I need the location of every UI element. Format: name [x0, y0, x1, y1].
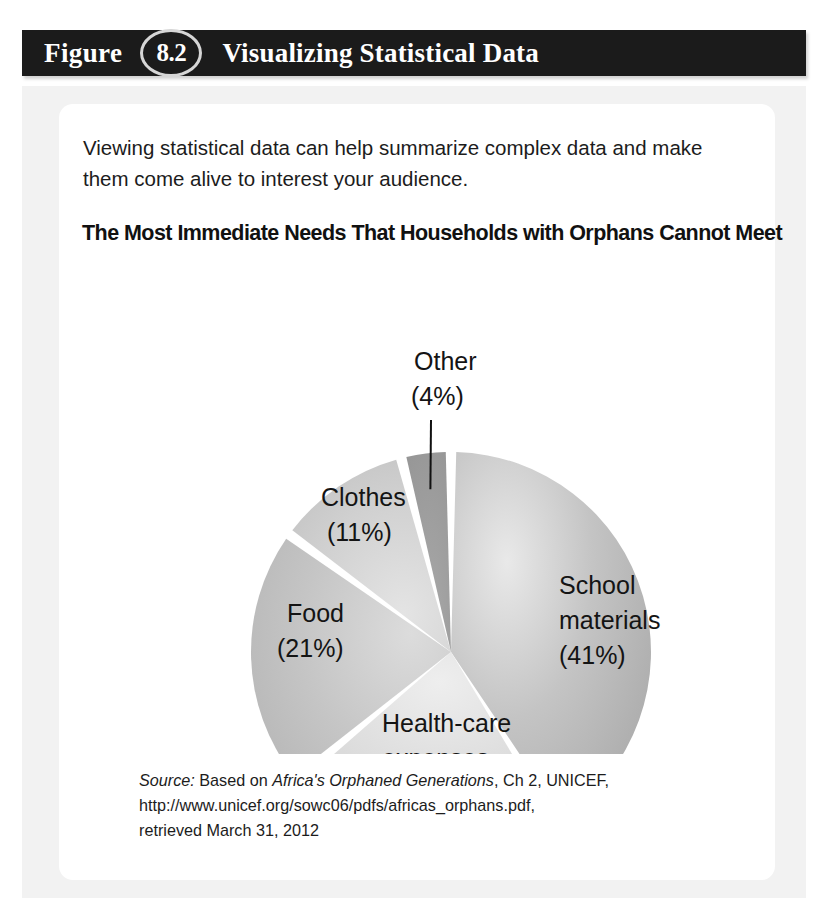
- pie-label-school-materials-line2: materials: [559, 606, 660, 634]
- source-work-title: Africa's Orphaned Generations: [272, 771, 494, 789]
- pie-label-food-line1: Food: [287, 599, 344, 627]
- source-note: Source: Based on Africa's Orphaned Gener…: [139, 768, 739, 843]
- figure-number-badge: 8.2: [140, 29, 202, 77]
- pie-chart-svg: School materials (41%) Health-care expen…: [59, 254, 775, 754]
- figure-header-bar: Figure 8.2 Visualizing Statistical Data: [22, 30, 806, 76]
- source-based-on-text: Based on: [199, 771, 267, 789]
- figure-title: Visualizing Statistical Data: [222, 38, 539, 69]
- figure-panel: Viewing statistical data can help summar…: [22, 86, 806, 898]
- figure-label: Figure: [44, 38, 122, 69]
- pie-chart: School materials (41%) Health-care expen…: [59, 254, 775, 754]
- pie-label-health-care-line2: expenses: [382, 744, 489, 754]
- pie-label-clothes-value: (11%): [327, 518, 392, 546]
- figure-card: Viewing statistical data can help summar…: [59, 104, 775, 880]
- source-label: Source:: [139, 771, 195, 789]
- chart-title: The Most Immediate Needs That Households…: [82, 221, 782, 246]
- pie-label-other-line1: Other: [414, 347, 477, 375]
- pie-label-school-materials-value: (41%): [559, 641, 626, 669]
- pie-label-clothes-line1: Clothes: [321, 483, 406, 511]
- source-retrieved: retrieved March 31, 2012: [139, 821, 319, 839]
- pie-label-health-care-line1: Health-care: [382, 709, 511, 737]
- figure-number: 8.2: [157, 39, 187, 67]
- pie-label-school-materials-line1: School: [559, 571, 635, 599]
- pie-label-other: Other (4%): [411, 347, 477, 410]
- pie-leader-line-other: [430, 420, 431, 489]
- pie-leader-lines: [430, 420, 431, 489]
- intro-paragraph: Viewing statistical data can help summar…: [83, 132, 723, 194]
- pie-label-other-value: (4%): [411, 382, 464, 410]
- source-url: http://www.unicef.org/sowc06/pdfs/africa…: [139, 796, 535, 814]
- pie-label-food-value: (21%): [277, 634, 344, 662]
- source-chapter: , Ch 2, UNICEF,: [494, 771, 609, 789]
